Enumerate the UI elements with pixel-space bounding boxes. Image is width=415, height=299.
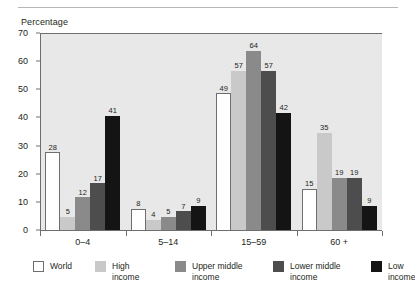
x-axis-group-separator <box>211 231 212 236</box>
y-tick-label: 60 <box>18 56 34 66</box>
bar: 7 <box>176 211 191 231</box>
y-tick-mark <box>36 61 40 62</box>
y-tick-label: 30 <box>18 141 34 151</box>
bar: 57 <box>231 71 246 231</box>
bar: 57 <box>261 71 276 231</box>
bar: 8 <box>131 209 146 232</box>
y-tick-mark <box>36 117 40 118</box>
bar: 19 <box>332 178 347 231</box>
bar: 12 <box>75 197 90 231</box>
y-tick-mark <box>36 145 40 146</box>
x-axis-category-label: 0–4 <box>75 237 90 247</box>
legend-swatch-icon <box>371 261 382 272</box>
legend-label: High income <box>112 261 139 283</box>
y-tick-label: 0 <box>23 225 34 235</box>
y-tick-mark <box>36 33 40 34</box>
bar-value-label: 5 <box>66 208 70 218</box>
legend-swatch-icon <box>175 261 186 272</box>
bar-group: 84579 <box>131 34 206 231</box>
y-tick-label: 40 <box>18 112 34 122</box>
y-tick-mark <box>36 89 40 90</box>
y-tick-label: 50 <box>18 84 34 94</box>
legend-label: World <box>50 261 72 272</box>
bar-value-label: 12 <box>79 189 87 199</box>
bar: 9 <box>362 206 377 231</box>
x-axis-group-separator <box>126 231 127 236</box>
legend-swatch-icon <box>95 261 106 272</box>
bar-value-label: 42 <box>280 104 288 114</box>
y-tick-label: 10 <box>18 197 34 207</box>
x-axis-category-label: 5–14 <box>158 237 178 247</box>
bar: 49 <box>216 93 231 231</box>
x-axis-category-label: 60 + <box>330 237 348 247</box>
bar-group: 4957645742 <box>216 34 291 231</box>
bar-value-label: 49 <box>220 85 228 95</box>
bar-value-label: 19 <box>335 169 343 179</box>
bar: 5 <box>161 217 176 231</box>
bar-cluster: 153519199 <box>302 34 377 231</box>
y-axis-line <box>40 33 41 230</box>
x-axis-end-tick <box>40 231 41 236</box>
bar: 19 <box>347 178 362 231</box>
bar-cluster: 4957645742 <box>216 34 291 231</box>
top-divider <box>18 7 398 8</box>
legend-item[interactable]: World <box>33 261 72 272</box>
bar-value-label: 17 <box>94 175 102 185</box>
bar: 41 <box>105 116 120 231</box>
bar-group: 285121741 <box>45 34 120 231</box>
bar: 9 <box>191 206 206 231</box>
plot-area: 285121741845794957645742153519199 <box>40 33 382 231</box>
bar: 35 <box>317 133 332 232</box>
bar-cluster: 84579 <box>131 34 206 231</box>
bar: 17 <box>90 183 105 231</box>
legend-label: Low income <box>388 261 415 283</box>
y-tick-label: 70 <box>18 28 34 38</box>
bar-value-label: 8 <box>136 200 140 210</box>
legend-label: Lower middle income <box>290 261 341 283</box>
x-axis-category-label: 15–59 <box>241 237 266 247</box>
bar: 42 <box>276 113 291 231</box>
chart-legend: WorldHigh incomeUpper middle incomeLower… <box>33 261 393 293</box>
bar-value-label: 57 <box>235 62 243 72</box>
bar-value-label: 19 <box>350 169 358 179</box>
bar-value-label: 5 <box>166 208 170 218</box>
bar: 28 <box>45 152 60 231</box>
legend-swatch-icon <box>273 261 284 272</box>
x-axis-group-separator <box>297 231 298 236</box>
bar-value-label: 15 <box>305 180 313 190</box>
bar-value-label: 64 <box>250 42 258 52</box>
bar-value-label: 4 <box>151 211 155 221</box>
legend-item[interactable]: Lower middle income <box>273 261 341 283</box>
plot-inner: 285121741845794957645742153519199 <box>40 34 382 231</box>
legend-swatch-icon <box>33 261 44 272</box>
bar-cluster: 285121741 <box>45 34 120 231</box>
y-tick-mark <box>36 173 40 174</box>
y-tick-mark <box>36 201 40 202</box>
x-axis-end-tick <box>382 231 383 236</box>
bar-value-label: 41 <box>109 107 117 117</box>
legend-item[interactable]: Upper middle income <box>175 261 243 283</box>
bar-value-label: 35 <box>320 124 328 134</box>
y-tick-label: 20 <box>18 169 34 179</box>
bar-value-label: 28 <box>49 144 57 154</box>
bar: 15 <box>302 189 317 231</box>
bar: 5 <box>60 217 75 231</box>
y-axis-title: Percentage <box>21 17 68 27</box>
bar-value-label: 7 <box>181 203 185 213</box>
legend-item[interactable]: High income <box>95 261 139 283</box>
bar-value-label: 9 <box>367 197 371 207</box>
bar: 64 <box>246 51 261 231</box>
bar-group: 153519199 <box>302 34 377 231</box>
legend-item[interactable]: Low income <box>371 261 415 283</box>
bar-value-label: 57 <box>265 62 273 72</box>
bar-value-label: 9 <box>196 197 200 207</box>
legend-label: Upper middle income <box>192 261 243 283</box>
